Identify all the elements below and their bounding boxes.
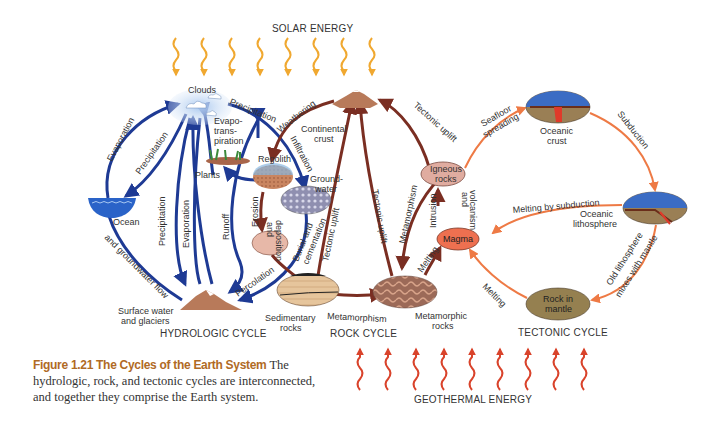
rock-in-mantle-label-2: mantle — [545, 304, 572, 314]
solar-energy-label: SOLAR ENERGY — [272, 23, 353, 34]
tectonic-uplift-label-3: Tectonic uplift — [412, 100, 460, 144]
ocean-node — [88, 198, 136, 218]
rock-cycle-title: ROCK CYCLE — [330, 328, 397, 339]
surface-water-mountain — [180, 290, 242, 310]
surface-water-label-1: Surface water — [118, 306, 174, 316]
intrusion-label-1: Intrusion — [428, 193, 438, 228]
oceanic-lithosphere-label-2: lithosphere — [573, 219, 617, 229]
groundwater-label-2: water — [314, 184, 337, 194]
oceanic-crust-label-2: crust — [547, 136, 567, 146]
continental-crust-label-2: crust — [314, 134, 334, 144]
evapotranspiration-label-2: trans- — [214, 126, 237, 136]
geothermal-energy-rays — [358, 349, 587, 390]
rock-in-mantle-label-1: Rock in — [543, 294, 573, 304]
oceanic-crust-label-1: Oceanic — [540, 126, 574, 136]
solar-energy-rays — [174, 38, 375, 75]
tectonic-uplift-label-2: Tectonic uplift — [370, 189, 389, 245]
precipitation-label-2: Precipitation — [157, 196, 167, 246]
runoff-label: Runoff — [221, 213, 231, 240]
tectonic-uplift-label-1: Tectonic uplift — [320, 207, 341, 263]
metamorphism-label-1: Metamorphism — [327, 311, 387, 324]
continental-crust-mountain — [332, 90, 378, 108]
evaporation-label: Evaporation — [105, 116, 136, 163]
hydrologic-cycle-title: HYDROLOGIC CYCLE — [160, 328, 267, 339]
evaporation-label-2: Evaporation — [181, 200, 191, 248]
groundwater-label-1: Ground- — [310, 174, 343, 184]
ocean-label: Ocean — [113, 217, 140, 227]
sedimentary-label-1: Sedimentary — [265, 313, 316, 323]
magma-label: Magma — [443, 234, 473, 244]
figure-label: Figure 1.21 The Cycles of the Earth Syst… — [33, 358, 266, 372]
sedimentary-rocks-node — [277, 273, 339, 306]
oceanic-lithosphere-node — [623, 192, 687, 224]
plants-label: Plants — [195, 170, 221, 180]
continental-crust-label-1: Continental — [301, 124, 347, 134]
erosion-label-2: and — [265, 222, 275, 237]
erosion-label-1: Erosion — [250, 196, 260, 227]
tectonic-cycle-title: TECTONIC CYCLE — [518, 327, 608, 338]
igneous-label-1: Igneous — [430, 164, 463, 174]
figure-caption: Figure 1.21 The Cycles of the Earth Syst… — [33, 357, 323, 405]
clouds-label: Clouds — [188, 85, 217, 95]
regolith-node — [253, 163, 293, 189]
regolith-label: Regolith — [258, 154, 291, 164]
surface-water-label-2: and glaciers — [121, 316, 170, 326]
evapotranspiration-label-1: Evapo- — [214, 116, 243, 126]
oceanic-lithosphere-label-1: Oceanic — [580, 209, 614, 219]
evapotranspiration-label-3: piration — [214, 136, 244, 146]
erosion-label-3: deposition — [274, 220, 284, 261]
metamorphic-label-2: rocks — [432, 321, 454, 331]
sedimentary-label-2: rocks — [280, 323, 302, 333]
metamorphic-rocks-node — [373, 276, 437, 308]
intrusion-label-3: volcanism — [468, 190, 478, 230]
igneous-label-2: rocks — [435, 174, 457, 184]
metamorphic-label-1: Metamorphic — [415, 311, 468, 321]
geothermal-energy-label: GEOTHERMAL ENERGY — [414, 394, 532, 405]
oceanic-crust-node — [526, 91, 590, 123]
